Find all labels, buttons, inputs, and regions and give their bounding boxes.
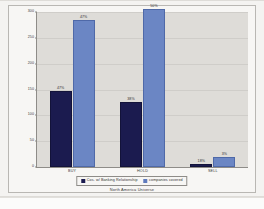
bar-data-label: 47% <box>80 16 88 20</box>
bar-sell-series-2[interactable]: 3% <box>213 157 235 167</box>
y-axis-tick-label: 50 <box>30 139 34 143</box>
y-axis-tick-label: 300 <box>28 10 34 14</box>
y-axis-tick-label: 250 <box>28 36 34 40</box>
page-top-rule <box>0 0 264 1</box>
slide-page: 05010015020025030047%47%BUY38%50%HOLD18%… <box>0 0 264 209</box>
y-axis-tick-label: 150 <box>28 88 34 92</box>
bar-data-label: 18% <box>198 160 206 164</box>
y-axis-tick-label: 200 <box>28 62 34 66</box>
bar-hold-series-2[interactable]: 50% <box>143 9 165 167</box>
y-axis-tick-label: 100 <box>28 114 34 118</box>
x-axis-category-label-sell: SELL <box>208 170 218 174</box>
bar-sell-series-1[interactable]: 18% <box>190 164 212 167</box>
plot-area: 05010015020025030047%47%BUY38%50%HOLD18%… <box>36 12 248 168</box>
y-axis-tick-mark <box>35 115 37 116</box>
legend-label-series-2: companies covered <box>149 179 183 183</box>
y-axis-tick-mark <box>35 89 37 90</box>
y-axis-tick-mark <box>35 37 37 38</box>
bar-buy-series-1[interactable]: 47% <box>50 91 72 167</box>
y-axis-tick-mark <box>35 12 37 13</box>
legend-item-series-1[interactable]: Cos. w/ Banking Relationship <box>81 179 137 183</box>
chart-frame: 05010015020025030047%47%BUY38%50%HOLD18%… <box>8 5 256 193</box>
bar-data-label: 3% <box>222 153 227 157</box>
y-axis-tick-mark <box>35 141 37 142</box>
bar-buy-series-2[interactable]: 47% <box>73 20 95 167</box>
legend-label-series-1: Cos. w/ Banking Relationship <box>87 179 138 183</box>
legend-item-series-2[interactable]: companies covered <box>144 179 183 183</box>
legend-swatch-series-2-icon <box>144 179 148 183</box>
x-axis-title: North America Universe <box>110 188 154 192</box>
bar-data-label: 47% <box>57 87 65 91</box>
x-axis-category-label-buy: BUY <box>68 170 76 174</box>
bar-hold-series-1[interactable]: 38% <box>120 102 142 167</box>
y-axis-tick-label: 0 <box>32 165 34 169</box>
bar-data-label: 38% <box>127 98 135 102</box>
legend-swatch-series-1-icon <box>81 179 85 183</box>
bar-data-label: 50% <box>150 5 158 9</box>
x-axis-category-label-hold: HOLD <box>137 170 148 174</box>
page-bottom-strip <box>0 197 264 209</box>
y-axis-tick-mark <box>35 63 37 64</box>
y-axis-tick-mark <box>35 167 37 168</box>
chart-legend: Cos. w/ Banking Relationship companies c… <box>76 176 187 186</box>
